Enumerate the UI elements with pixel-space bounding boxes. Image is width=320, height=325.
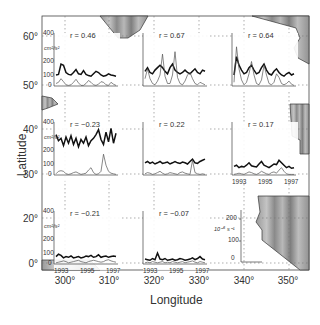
- panel-y-tick-100: 100: [43, 160, 54, 167]
- x-tick-310: 310°: [94, 275, 124, 286]
- correlation-label: r = 0.64: [248, 31, 274, 40]
- panel-y-tick-400: 400: [43, 118, 54, 125]
- correlation-label: r = 0.67: [159, 31, 185, 40]
- panel-r2c1: [54, 122, 120, 181]
- panel-unit-label: cm²/s²: [44, 45, 59, 51]
- y-tick-40: 40°: [12, 124, 38, 135]
- year-tick-1995: 1995: [258, 178, 272, 185]
- panel-y-tick-400: 400: [43, 207, 54, 214]
- panel-y-tick-200: 200: [43, 146, 54, 153]
- year-tick-1993: 1993: [232, 178, 246, 185]
- y-tick-60: 60°: [12, 31, 38, 42]
- correlation-label: r = −0.21: [70, 209, 100, 218]
- x-axis-label: Longitude: [150, 293, 203, 307]
- panel-y-tick-100: 100: [43, 71, 54, 78]
- x-tick-320: 320°: [139, 275, 169, 286]
- year-tick-1995: 1995: [80, 267, 94, 274]
- year-tick-1993: 1993: [54, 267, 68, 274]
- year-tick-1997: 1997: [106, 267, 120, 274]
- year-tick-1997: 1997: [284, 178, 298, 185]
- panel-r3c2: [143, 211, 209, 270]
- panel-unit-label: cm²/s²: [44, 134, 59, 140]
- panel-r2c3: [232, 122, 298, 181]
- panel-r1c1: [54, 33, 120, 92]
- panel-y-tick-0: 0: [48, 81, 52, 88]
- correlation-label: r = −0.23: [70, 120, 100, 129]
- key-y-tick-0: 0: [231, 254, 235, 261]
- key-unit-label: 10⁻⁶ s⁻¹: [214, 226, 235, 232]
- panel-y-tick-0: 0: [48, 170, 52, 177]
- correlation-label: r = 0.22: [159, 120, 185, 129]
- x-tick-350: 350°: [273, 275, 303, 286]
- panel-r1c2: [143, 33, 209, 92]
- y-tick-0: 0°: [12, 258, 38, 269]
- year-tick-1995: 1995: [169, 267, 183, 274]
- panel-y-tick-200: 200: [43, 57, 54, 64]
- y-tick-20: 20°: [12, 213, 38, 224]
- correlation-label: r = 0.46: [70, 31, 96, 40]
- key-y-tick-200: 200: [226, 214, 237, 221]
- panel-r3c1: [54, 211, 120, 270]
- x-tick-330: 330°: [184, 275, 214, 286]
- year-tick-1993: 1993: [143, 267, 157, 274]
- panel-y-tick-200: 200: [43, 235, 54, 242]
- x-tick-300: 300°: [50, 275, 80, 286]
- panel-unit-label: cm²/s²: [44, 223, 59, 229]
- y-tick-30: 30°: [12, 169, 38, 180]
- panel-r1c3: [232, 33, 298, 92]
- correlation-label: r = −0.07: [159, 209, 189, 218]
- x-tick-340: 340°: [229, 275, 259, 286]
- panel-y-tick-0: 0: [48, 259, 52, 266]
- panel-y-tick-100: 100: [43, 249, 54, 256]
- panel-r2c2: [143, 122, 209, 181]
- year-tick-1997: 1997: [195, 267, 209, 274]
- key-y-tick-100: 100: [228, 236, 239, 243]
- panel-y-tick-400: 400: [43, 29, 54, 36]
- correlation-label: r = 0.17: [248, 120, 274, 129]
- y-tick-50: 50°: [12, 80, 38, 91]
